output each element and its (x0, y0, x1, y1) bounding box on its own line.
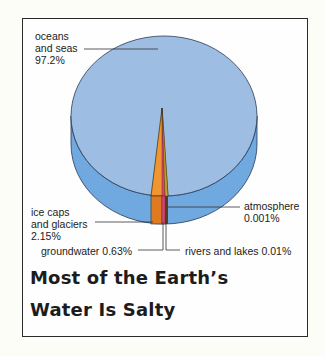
wedge-side-groundwater (162, 196, 165, 224)
label-ice-caps: ice caps and glaciers 2.15% (31, 206, 88, 242)
leader-rivers (166, 222, 180, 250)
chart-title-line1: Most of the Earth’s (30, 267, 228, 288)
chart-title-line2: Water Is Salty (30, 299, 175, 320)
label-rivers: rivers and lakes 0.01% (185, 245, 291, 257)
label-atmosphere: atmosphere 0.001% (244, 200, 299, 224)
label-oceans: oceans and seas 97.2% (35, 30, 78, 66)
leader-groundwater (138, 222, 163, 250)
wedge-side-rivers (165, 196, 168, 224)
wedge-side-ice (151, 196, 162, 224)
label-groundwater: groundwater 0.63% (41, 245, 132, 257)
